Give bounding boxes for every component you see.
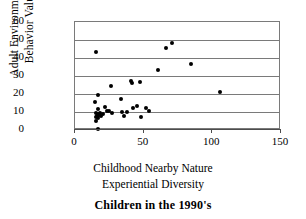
- x-axis-tick-label: 0: [59, 136, 89, 147]
- data-point: [164, 46, 168, 50]
- y-axis-tick-label: 40: [0, 51, 24, 62]
- x-axis-tick-mark: [143, 129, 144, 133]
- y-axis-title-line-2: Behavior Value: [22, 0, 37, 63]
- gridline: [75, 58, 279, 59]
- gridline: [75, 40, 279, 41]
- y-axis-tick-label: 0: [0, 123, 24, 134]
- data-point: [122, 114, 126, 118]
- y-axis-tick-label: 50: [0, 33, 24, 44]
- data-point: [130, 81, 134, 85]
- x-axis-tick-mark: [74, 129, 75, 133]
- data-point: [110, 111, 114, 115]
- figure-caption: Children in the 1990's: [0, 198, 306, 212]
- data-point: [103, 105, 107, 109]
- data-point: [135, 104, 139, 108]
- data-point: [109, 84, 113, 88]
- y-axis-tick-label: 30: [0, 69, 24, 80]
- data-point: [156, 68, 160, 72]
- x-axis-tick-mark: [211, 129, 212, 133]
- data-point: [189, 62, 193, 66]
- plot-area: [74, 21, 280, 129]
- data-point: [93, 100, 97, 104]
- x-axis-title-line-2: Experiential Diversity: [0, 176, 306, 192]
- data-point: [125, 110, 129, 114]
- y-axis-tick-label: 20: [0, 87, 24, 98]
- x-axis-tick-label: 150: [265, 136, 295, 147]
- x-axis-line: [74, 129, 280, 130]
- data-point: [170, 41, 174, 45]
- data-point: [96, 93, 100, 97]
- gridline: [75, 76, 279, 77]
- y-axis-tick-label: 60: [0, 15, 24, 26]
- x-axis-tick-mark: [280, 129, 281, 133]
- scatter-plot-figure: Adult Environmental Behavior Value Child…: [0, 0, 306, 219]
- data-point: [138, 80, 142, 84]
- x-axis-tick-label: 100: [196, 136, 226, 147]
- gridline: [75, 94, 279, 95]
- x-axis-title-line-1: Childhood Nearby Nature: [0, 160, 306, 176]
- data-point: [139, 115, 143, 119]
- x-axis-tick-label: 50: [128, 136, 158, 147]
- data-point: [94, 50, 98, 54]
- data-point: [119, 97, 123, 101]
- y-axis-tick-label: 10: [0, 105, 24, 116]
- x-axis-title: Childhood Nearby Nature Experiential Div…: [0, 160, 306, 192]
